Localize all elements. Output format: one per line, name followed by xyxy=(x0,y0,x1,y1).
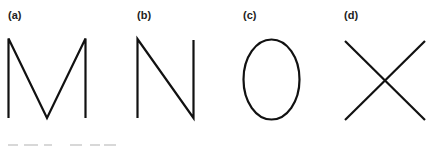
glyph-canvas xyxy=(0,0,429,149)
letter-x-glyph xyxy=(345,41,425,120)
cropped-next-row xyxy=(0,143,429,149)
letter-n-glyph xyxy=(138,39,194,118)
letter-m-glyph xyxy=(9,39,86,119)
letter-o-ellipse xyxy=(244,40,300,120)
